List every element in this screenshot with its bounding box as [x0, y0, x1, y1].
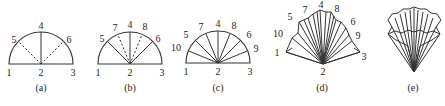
panel-a-label-5: 5 [12, 35, 17, 45]
panel-c-label-1: 1 [184, 67, 189, 77]
panel-d-label-10: 10 [273, 29, 283, 39]
panel-e-caption: (e) [407, 83, 418, 93]
panel-d-fan [286, 10, 360, 64]
panel-d-label-5: 5 [288, 12, 293, 22]
panel-c-label-7: 7 [199, 22, 204, 32]
panel-a-label-6: 6 [67, 35, 72, 45]
panel-b-label-2: 2 [128, 68, 133, 78]
panel-d-label-8: 8 [335, 4, 340, 14]
panel-c-label-9: 9 [254, 44, 259, 54]
panel-d-label-6: 6 [351, 17, 356, 27]
panel-a-semicircle [9, 32, 73, 64]
panel-d-label-2: 2 [321, 67, 326, 77]
panel-c-label-10: 10 [171, 43, 181, 53]
panel-c-label-4: 4 [216, 19, 221, 29]
panel-b-label-7: 7 [113, 23, 118, 33]
panel-a-label-4: 4 [39, 21, 44, 31]
panel-d-label-7: 7 [303, 5, 308, 15]
panel-a-label-3: 3 [71, 68, 76, 78]
panel-a-label-1: 1 [7, 68, 12, 78]
panel-c-semicircle [186, 31, 250, 63]
panel-b-label-5: 5 [100, 34, 105, 44]
panel-b-label-8: 8 [143, 22, 148, 32]
panel-b-label-6: 6 [156, 34, 161, 44]
panel-e-folded-cone [388, 7, 441, 72]
panel-b-semicircle [98, 32, 162, 64]
panel-b-label-3: 3 [160, 68, 165, 78]
panel-b-caption: (b) [124, 83, 136, 93]
panel-d-label-1: 1 [275, 48, 280, 58]
panel-b-label-1: 1 [96, 68, 101, 78]
panel-c-label-5: 5 [184, 30, 189, 40]
panel-d-label-3: 3 [362, 52, 367, 62]
panel-d-label-9: 9 [356, 31, 361, 41]
panel-c-label-3: 3 [248, 67, 253, 77]
panel-a-caption: (a) [35, 83, 46, 93]
panel-a-label-2: 2 [39, 68, 44, 78]
panel-c-label-6: 6 [247, 30, 252, 40]
panel-d-label-4: 4 [319, 0, 324, 10]
panel-b-label-4: 4 [128, 20, 133, 30]
panel-c-label-2: 2 [216, 67, 221, 77]
panel-c-label-8: 8 [232, 21, 237, 31]
panel-d-caption: (d) [316, 83, 328, 93]
panel-c-caption: (c) [212, 83, 223, 93]
